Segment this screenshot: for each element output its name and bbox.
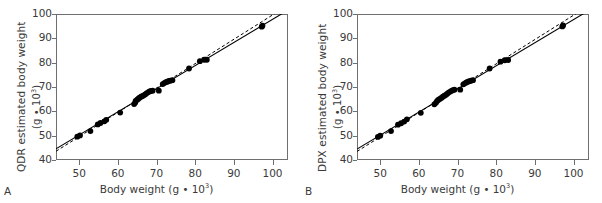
data-point (204, 57, 210, 63)
x-label-suffix-b: ) (510, 183, 514, 195)
x-label-base-a: 10 (188, 183, 205, 195)
x-axis-label-panel-b: Body weight (g • 103) (307, 182, 602, 195)
data-point (452, 87, 458, 93)
x-label-prefix-a: Body weight (g (100, 183, 183, 195)
data-point (418, 110, 424, 116)
panel-letter-b: B (305, 185, 312, 197)
data-point (150, 88, 156, 94)
data-point (186, 66, 192, 72)
x-label-base-b: 10 (489, 183, 506, 195)
data-point (156, 88, 162, 94)
plot-area-panel-b (301, 0, 602, 203)
data-point (388, 128, 394, 134)
data-point (103, 117, 109, 123)
data-point (88, 128, 94, 134)
panel-a: QDR estimated body weight (g • 103) 4050… (0, 0, 301, 203)
plot-area-panel-a (0, 0, 301, 203)
x-label-suffix-a: ) (209, 183, 213, 195)
x-axis-label-panel-a: Body weight (g • 103) (6, 182, 307, 195)
panel-b: DPX estimated body weight (g • 103) 4050… (301, 0, 602, 203)
data-point (457, 87, 463, 93)
data-point (487, 66, 493, 72)
figure-two-panel-scatter: QDR estimated body weight (g • 103) 4050… (0, 0, 602, 203)
data-point (377, 133, 383, 139)
data-point (260, 23, 266, 29)
data-point (560, 23, 566, 29)
data-point (117, 110, 123, 116)
data-point (169, 77, 175, 83)
x-label-prefix-b: Body weight (g (401, 183, 484, 195)
panel-letter-a: A (4, 185, 11, 197)
data-point (505, 57, 511, 63)
data-point (77, 133, 83, 139)
data-point (470, 77, 476, 83)
data-point (404, 116, 410, 122)
